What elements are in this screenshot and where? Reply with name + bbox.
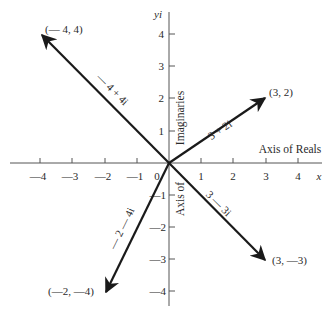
y-tick-label: 1 <box>159 125 165 137</box>
x-tick-label: —4 <box>29 170 47 182</box>
origin-label: 0 <box>154 170 160 182</box>
vector-neg4-4 <box>42 35 169 163</box>
point-label-3-neg3: (3, —3) <box>272 254 307 267</box>
x-tick-label: 1 <box>198 170 204 182</box>
y-tick-label: 3 <box>159 60 165 72</box>
y-tick-label: —4 <box>149 285 167 297</box>
point-label-3-2: (3, 2) <box>269 86 293 99</box>
x-tick-label: 2 <box>230 170 236 182</box>
x-tick-label: —2 <box>94 170 112 182</box>
y-tick-label: —2 <box>149 221 167 233</box>
vector-expr-neg4-4: — 4 + 4i <box>94 70 131 107</box>
x-tick-label: —3 <box>61 170 79 182</box>
y-axis-label: yi <box>153 8 162 20</box>
x-tick-label: 4 <box>295 170 301 182</box>
complex-plane-diagram: —4 —3 —2 —1 1 2 3 4 0 x 4 3 2 1 —1 —2 —3… <box>0 0 336 318</box>
real-axis-name: Axis of Reals <box>259 143 322 155</box>
imaginary-axis-name-prefix: Axis of <box>174 182 186 216</box>
x-tick-label: —1 <box>126 170 144 182</box>
y-tick-label: 2 <box>159 92 165 104</box>
x-tick-label: 3 <box>263 170 269 182</box>
y-tick-label: 4 <box>159 28 165 40</box>
y-tick-label: —3 <box>149 253 167 265</box>
vector-expr-neg2-neg4: — 2 — 4i <box>106 206 137 252</box>
imaginary-axis-name: Imaginaries <box>174 90 187 145</box>
point-label-neg4-4: (— 4, 4) <box>45 23 83 36</box>
point-label-neg2-neg4: (—2, —4) <box>48 285 94 298</box>
x-axis-label: x <box>316 170 322 182</box>
